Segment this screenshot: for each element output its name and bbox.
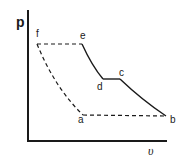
point-label-d: d <box>97 81 103 92</box>
point-label-f: f <box>36 28 39 39</box>
point-label-b: b <box>170 114 176 125</box>
x-axis-label: υ <box>148 144 154 158</box>
segment-c-b <box>120 79 166 116</box>
point-label-e: e <box>80 30 86 41</box>
point-label-a: a <box>78 114 84 125</box>
y-axis-label: p <box>16 14 25 30</box>
segment-a-f <box>37 44 83 115</box>
segment-b-a <box>83 115 166 116</box>
segment-e-d <box>82 44 103 79</box>
pv-diagram: p υ f e d c a b <box>0 0 184 158</box>
point-label-c: c <box>119 67 124 78</box>
